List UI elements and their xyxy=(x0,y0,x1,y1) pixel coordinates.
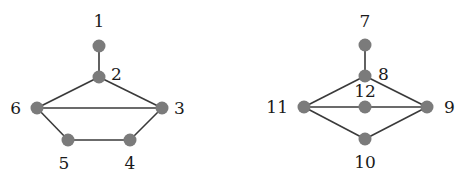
edge-6-5 xyxy=(37,108,68,140)
edge-10-9 xyxy=(365,107,427,139)
node-label-9: 9 xyxy=(444,97,455,117)
node-1 xyxy=(93,40,106,53)
edge-2-3 xyxy=(99,77,162,108)
node-label-1: 1 xyxy=(94,11,105,31)
node-7 xyxy=(359,39,372,52)
node-6 xyxy=(31,102,44,115)
node-9 xyxy=(421,101,434,114)
node-5 xyxy=(62,134,75,147)
node-12 xyxy=(359,101,372,114)
node-label-2: 2 xyxy=(111,64,122,84)
node-2 xyxy=(93,71,106,84)
node-label-3: 3 xyxy=(174,98,185,118)
node-10 xyxy=(359,133,372,146)
labels: 123456789101112 xyxy=(10,11,455,173)
edge-4-3 xyxy=(130,108,162,140)
edge-11-10 xyxy=(304,107,365,139)
node-label-11: 11 xyxy=(266,97,288,117)
node-label-7: 7 xyxy=(360,11,371,31)
node-label-12: 12 xyxy=(354,81,376,101)
node-3 xyxy=(156,102,169,115)
node-label-6: 6 xyxy=(10,98,21,118)
node-11 xyxy=(298,101,311,114)
node-label-5: 5 xyxy=(59,153,70,173)
graph-diagram: 123456789101112 xyxy=(0,0,465,181)
node-label-10: 10 xyxy=(354,152,376,172)
edge-2-6 xyxy=(37,77,99,108)
node-4 xyxy=(124,134,137,147)
node-label-8: 8 xyxy=(378,64,389,84)
node-label-4: 4 xyxy=(125,153,136,173)
